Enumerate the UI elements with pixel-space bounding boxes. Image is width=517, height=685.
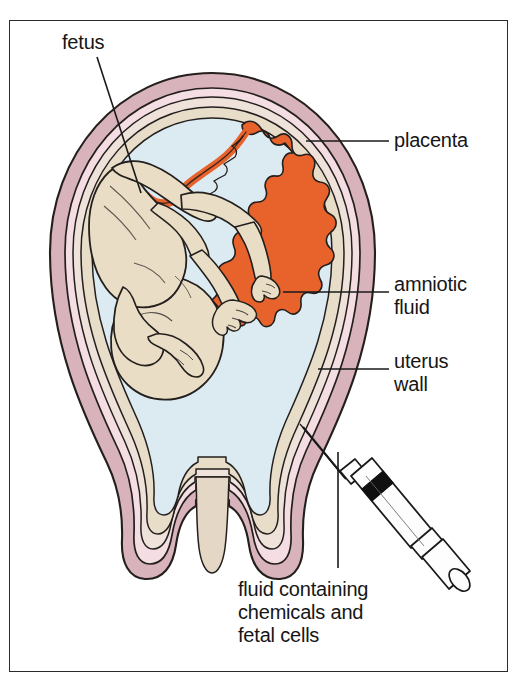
cervix bbox=[196, 477, 229, 573]
label-placenta: placenta bbox=[394, 129, 468, 152]
label-amniotic-fluid: amniotic fluid bbox=[394, 273, 467, 319]
label-uterus-wall: uterus wall bbox=[394, 350, 448, 396]
label-fluid-sample: fluid containing chemicals and fetal cel… bbox=[238, 578, 368, 647]
label-fetus: fetus bbox=[62, 31, 104, 54]
syringe bbox=[300, 424, 474, 595]
figure-root: fetus placenta amniotic fluid uterus wal… bbox=[0, 0, 517, 685]
